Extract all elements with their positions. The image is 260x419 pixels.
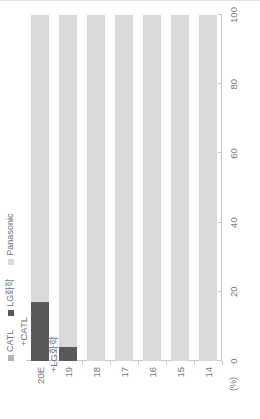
rotated-figure-wrapper: CATLLG화학Panasonic (%) 020406080100141516… bbox=[0, 0, 260, 419]
category-axis-label: 19 bbox=[63, 367, 74, 391]
bar-row bbox=[199, 15, 216, 361]
bar-segment bbox=[31, 15, 48, 302]
legend-swatch-icon bbox=[8, 355, 14, 361]
category-axis-label: 18 bbox=[91, 367, 102, 391]
bar-segment bbox=[199, 15, 216, 361]
bar-annotation: +CATL bbox=[18, 317, 29, 346]
category-axis-tick bbox=[222, 361, 223, 365]
legend-item: LG화학 bbox=[6, 279, 15, 316]
legend-swatch-icon bbox=[8, 259, 14, 265]
legend-item: Panasonic bbox=[6, 214, 15, 265]
category-axis-label: 15 bbox=[175, 367, 186, 391]
legend-item-label: LG화학 bbox=[6, 279, 15, 307]
bar-row bbox=[171, 15, 188, 361]
category-axis-label: 20E bbox=[35, 367, 46, 391]
value-axis-tick bbox=[218, 83, 222, 84]
legend-item-label: CATL bbox=[6, 330, 15, 352]
category-axis-tick bbox=[194, 361, 195, 365]
bar-segment bbox=[115, 15, 132, 361]
category-axis-label: 17 bbox=[119, 367, 130, 391]
value-axis-tick-label: 0 bbox=[228, 358, 239, 363]
legend-item: CATL bbox=[6, 330, 15, 361]
legend-swatch-icon bbox=[8, 310, 14, 316]
chart-figure: CATLLG화학Panasonic (%) 020406080100141516… bbox=[0, 0, 260, 419]
bar-row bbox=[87, 15, 104, 361]
bar-segment bbox=[59, 15, 76, 347]
value-axis-line bbox=[221, 15, 222, 361]
category-axis-label: 16 bbox=[147, 367, 158, 391]
legend-item-label: Panasonic bbox=[6, 214, 15, 256]
plot-area: 020406080100141516171819+LG화학20E+CATL bbox=[26, 15, 222, 361]
bar-row bbox=[115, 15, 132, 361]
category-axis-tick bbox=[54, 361, 55, 365]
category-axis-label: 14 bbox=[203, 367, 214, 391]
category-axis-tick bbox=[82, 361, 83, 365]
category-axis-tick bbox=[166, 361, 167, 365]
bar-row bbox=[59, 15, 76, 361]
value-axis-tick bbox=[218, 152, 222, 153]
value-axis-tick bbox=[218, 14, 222, 15]
bar-segment bbox=[87, 15, 104, 361]
category-axis-tick bbox=[138, 361, 139, 365]
value-axis-tick bbox=[218, 222, 222, 223]
value-axis-tick-label: 60 bbox=[228, 148, 239, 159]
bar-segment bbox=[171, 15, 188, 361]
value-axis-tick-label: 80 bbox=[228, 79, 239, 90]
value-axis-tick bbox=[218, 291, 222, 292]
value-axis-unit-label: (%) bbox=[228, 377, 238, 391]
chart-legend: CATLLG화학Panasonic bbox=[6, 214, 15, 361]
value-axis-tick-label: 20 bbox=[228, 287, 239, 298]
value-axis-tick-label: 100 bbox=[228, 7, 239, 23]
bar-segment bbox=[143, 15, 160, 361]
bar-segment bbox=[59, 347, 76, 361]
category-axis-tick bbox=[110, 361, 111, 365]
bar-segment bbox=[31, 302, 48, 361]
bar-row bbox=[31, 15, 48, 361]
bar-row bbox=[143, 15, 160, 361]
value-axis-tick-label: 40 bbox=[228, 217, 239, 228]
